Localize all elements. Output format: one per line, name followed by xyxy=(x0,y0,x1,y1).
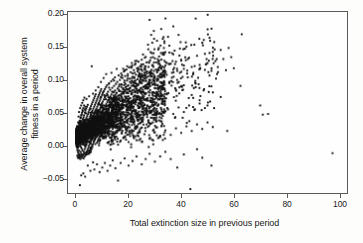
y-tick-label: 0.20 xyxy=(48,9,64,18)
x-tick-mark xyxy=(287,194,288,198)
y-axis-label-line1: Average change in overall system xyxy=(19,9,30,199)
x-tick-mark xyxy=(75,194,76,198)
y-axis-label-line2: fitness in a period xyxy=(30,9,41,199)
x-tick-mark xyxy=(181,194,182,198)
y-tick-label: 0.05 xyxy=(48,108,64,117)
x-tick-mark xyxy=(128,194,129,198)
y-tick-label: 0.10 xyxy=(48,75,64,84)
x-tick-mark xyxy=(340,194,341,198)
plot-area xyxy=(67,11,348,194)
scatter-figure: −0.050.000.050.100.150.20 020406080100 T… xyxy=(0,0,363,243)
x-tick-label: 40 xyxy=(161,200,201,209)
x-tick-mark xyxy=(234,194,235,198)
x-tick-label: 20 xyxy=(108,200,148,209)
x-tick-label: 80 xyxy=(267,200,307,209)
x-tick-label: 0 xyxy=(55,200,95,209)
x-tick-label: 60 xyxy=(214,200,254,209)
x-tick-label: 100 xyxy=(320,200,360,209)
y-tick-label: −0.05 xyxy=(43,174,64,183)
x-axis-label: Total extinction size in previous period xyxy=(0,218,363,228)
scatter-points-canvas xyxy=(68,12,347,193)
y-tick-label: 0.00 xyxy=(48,141,64,150)
y-tick-label: 0.15 xyxy=(48,42,64,51)
y-axis-label: Average change in overall system fitness… xyxy=(19,9,41,199)
